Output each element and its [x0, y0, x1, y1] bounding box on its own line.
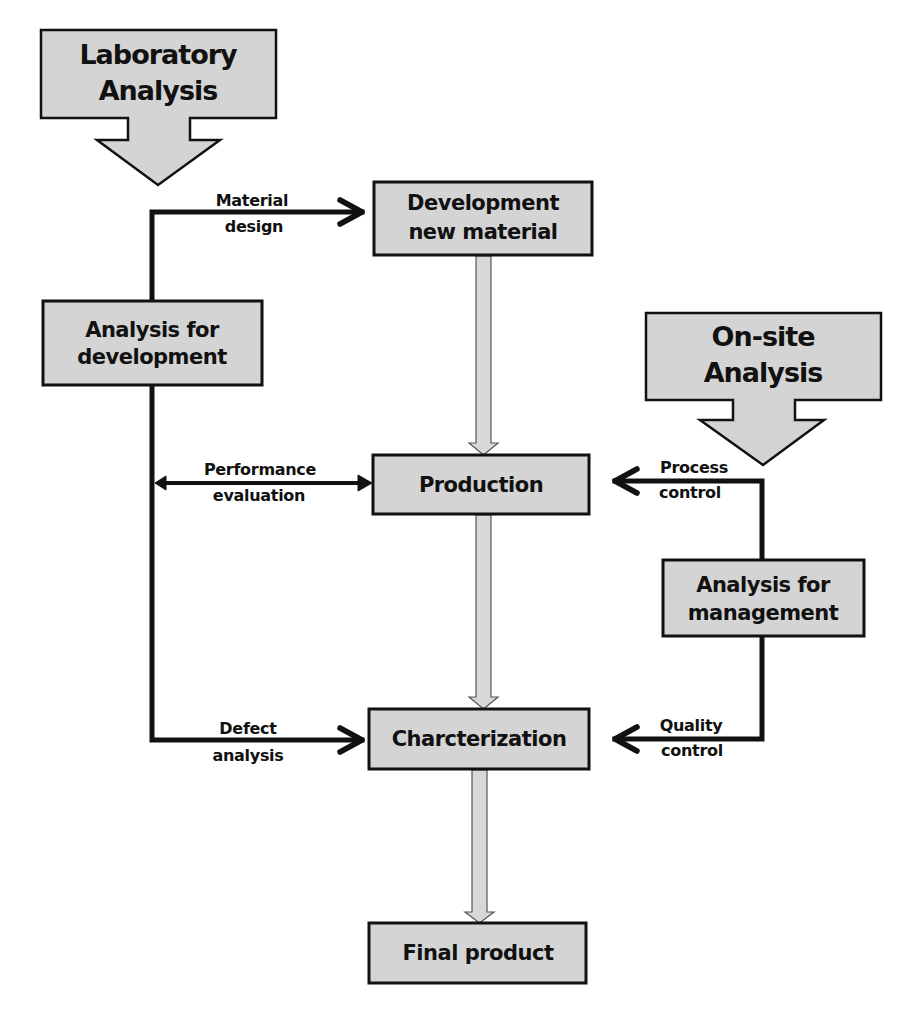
center-flow-connectors	[465, 256, 498, 923]
process-control-label-line1: Process	[660, 458, 728, 477]
performance-left-arrowhead-icon	[155, 476, 166, 490]
laboratory-analysis-label-line1: Laboratory	[79, 39, 238, 70]
defect-analysis-label-line2: analysis	[212, 746, 283, 765]
quality-control-label-line2: control	[661, 741, 723, 760]
development-material-line1: Development	[407, 191, 559, 215]
connector-development-to-production	[469, 256, 498, 455]
quality-control-label-line1: Quality	[660, 716, 724, 735]
node-analysis-for-development[interactable]: Analysis for development	[43, 301, 262, 385]
performance-evaluation-label-line2: evaluation	[213, 486, 305, 505]
analysis-management-line2: management	[688, 601, 839, 625]
node-analysis-for-management[interactable]: Analysis for management	[663, 560, 864, 636]
production-label: Production	[419, 473, 543, 497]
onsite-analysis-label-line2: Analysis	[704, 357, 823, 388]
node-production[interactable]: Production	[373, 455, 589, 514]
laboratory-analysis-label-line2: Analysis	[99, 75, 218, 106]
left-trunk-line	[152, 386, 362, 740]
development-material-line2: new material	[408, 220, 557, 244]
material-design-label-line1: Material	[216, 191, 288, 210]
node-characterization[interactable]: Charcterization	[369, 709, 589, 769]
onsite-analysis-source: On-site Analysis	[646, 313, 881, 465]
characterization-label: Charcterization	[392, 727, 567, 751]
defect-analysis-label-line1: Defect	[219, 719, 277, 738]
flow-diagram: Laboratory Analysis On-site Analysis Ana…	[0, 0, 913, 1010]
connector-characterization-to-final	[465, 770, 494, 923]
material-design-label-line2: design	[225, 217, 283, 236]
analysis-development-line2: development	[77, 345, 227, 369]
node-final-product[interactable]: Final product	[369, 923, 586, 983]
connector-production-to-characterization	[469, 515, 498, 709]
performance-right-arrowhead-icon	[358, 475, 372, 491]
laboratory-analysis-source: Laboratory Analysis	[41, 30, 276, 185]
performance-evaluation-label-line1: Performance	[204, 460, 317, 479]
final-product-label: Final product	[403, 941, 554, 965]
analysis-management-line1: Analysis for	[696, 573, 831, 597]
analysis-development-line1: Analysis for	[85, 318, 220, 342]
onsite-analysis-label-line1: On-site	[712, 321, 815, 352]
node-development-new-material[interactable]: Development new material	[374, 182, 592, 255]
process-control-label-line2: control	[659, 483, 721, 502]
